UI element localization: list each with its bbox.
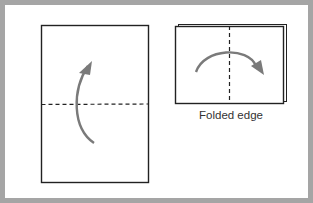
folded-edge-label: Folded edge (176, 109, 286, 121)
folding-diagram (0, 0, 313, 203)
step-2-paper (176, 25, 287, 104)
step-1-paper (42, 26, 149, 183)
